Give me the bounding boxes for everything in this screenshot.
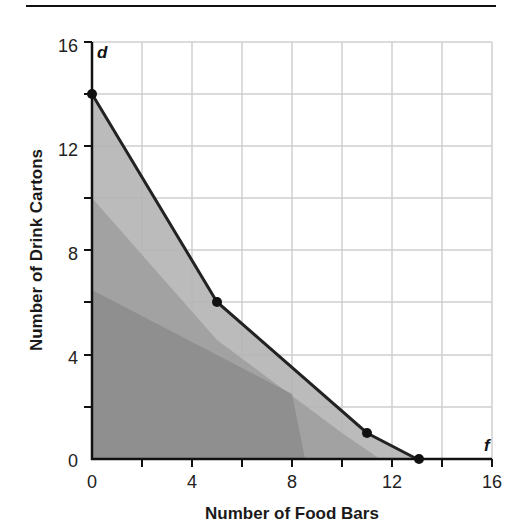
y-tick-4: 4 [68, 348, 78, 368]
x-tick-12: 12 [382, 472, 402, 492]
x-tick-16: 16 [482, 472, 502, 492]
x-axis-title: Number of Food Bars [205, 504, 379, 523]
x-tick-0: 0 [87, 472, 97, 492]
chart: 16 12 8 4 0 0 4 8 12 16 d f Number of Fo… [0, 0, 520, 530]
x-tick-8: 8 [287, 472, 297, 492]
x-tick-4: 4 [187, 472, 197, 492]
y-tick-8: 8 [68, 244, 78, 264]
y-tick-0: 0 [68, 451, 78, 471]
y-axis-title: Number of Drink Cartons [27, 149, 46, 351]
y-tick-16: 16 [58, 36, 78, 56]
y-end-label: d [97, 43, 108, 62]
x-end-label: f [484, 436, 492, 455]
y-tick-12: 12 [58, 140, 78, 160]
